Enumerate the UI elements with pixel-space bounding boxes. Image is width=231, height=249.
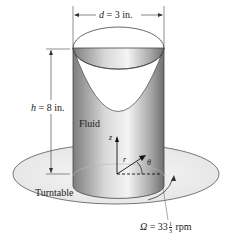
theta-label: θ — [147, 159, 151, 167]
diagram-canvas — [0, 0, 231, 249]
diameter-label: d = 3 in. — [99, 10, 132, 20]
turntable-label: Turntable — [35, 188, 74, 198]
fluid-label: Fluid — [79, 119, 100, 129]
r-axis-label: r — [123, 156, 126, 164]
z-axis-label: z — [109, 134, 112, 142]
omega-label: Ω = 3313 rpm — [140, 221, 191, 234]
height-label: h = 8 in. — [31, 103, 64, 113]
